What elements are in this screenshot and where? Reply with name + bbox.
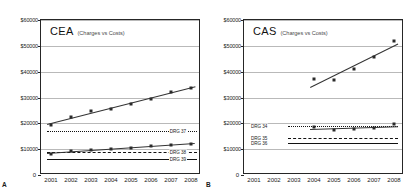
panel-letter-b: B: [206, 181, 211, 188]
data-point: [110, 107, 113, 110]
x-axis-label-2004: 2004: [104, 177, 117, 183]
y-axis-label: $60000: [21, 17, 38, 23]
data-point: [90, 148, 93, 151]
data-point: [373, 127, 376, 130]
x-axis-label-2006: 2006: [347, 177, 360, 183]
data-point: [333, 78, 336, 81]
data-point: [313, 125, 316, 128]
y-axis-tick: [241, 72, 244, 73]
y-axis-tick: [241, 98, 244, 99]
data-point: [373, 56, 376, 59]
chart-subtitle: (Charges vs Costs): [281, 30, 328, 36]
chart-panel-cas: 0$10000$20000$30000$40000$50000$60000200…: [205, 0, 411, 195]
data-point: [170, 144, 173, 147]
data-point: [313, 78, 316, 81]
y-axis-label: $40000: [21, 69, 38, 75]
trendline-charges: [47, 87, 195, 126]
data-point: [70, 150, 73, 153]
data-point: [90, 110, 93, 113]
reference-line-drg-35: [288, 138, 398, 139]
plot-area-cea: 0$10000$20000$30000$40000$50000$60000200…: [40, 19, 200, 174]
y-axis-label: $40000: [224, 69, 241, 75]
gridline: [41, 46, 199, 47]
y-axis-tick: [241, 175, 244, 176]
reference-line-label-drg-37: DRG 37: [169, 129, 187, 134]
x-axis-label-2005: 2005: [124, 177, 137, 183]
gridline: [41, 20, 199, 21]
gridline: [244, 20, 402, 21]
reference-line-drg-36: [288, 143, 398, 144]
x-axis-label-2001: 2001: [247, 177, 260, 183]
x-axis-label-2008: 2008: [184, 177, 197, 183]
y-axis-label: $30000: [21, 95, 38, 101]
x-axis-label-2008: 2008: [387, 177, 400, 183]
y-axis-label: $60000: [224, 17, 241, 23]
data-point: [190, 143, 193, 146]
data-point: [353, 127, 356, 130]
y-axis-label: $20000: [224, 120, 241, 126]
y-axis-tick: [241, 123, 244, 124]
data-point: [333, 128, 336, 131]
data-point: [393, 40, 396, 43]
y-axis-label: 0: [33, 172, 36, 178]
data-point: [130, 103, 133, 106]
chart-subtitle: (Charges vs Costs): [78, 30, 125, 36]
y-axis-tick: [38, 98, 41, 99]
gridline: [41, 123, 199, 124]
y-axis-label: $10000: [21, 146, 38, 152]
y-axis-tick: [38, 175, 41, 176]
data-point: [110, 147, 113, 150]
x-axis-label-2002: 2002: [267, 177, 280, 183]
chart-title-group: CEA(Charges vs Costs): [50, 25, 125, 37]
plot-area-cas: 0$10000$20000$30000$40000$50000$60000200…: [243, 19, 403, 174]
chart-title: CEA: [50, 25, 74, 37]
x-axis-label-2003: 2003: [287, 177, 300, 183]
chart-title-group: CAS(Charges vs Costs): [253, 25, 328, 37]
x-axis-label-2007: 2007: [164, 177, 177, 183]
gridline: [244, 149, 402, 150]
chart-title: CAS: [253, 25, 277, 37]
y-axis-tick: [38, 123, 41, 124]
reference-line-label-drg-34: DRG 34: [250, 123, 268, 128]
data-point: [353, 68, 356, 71]
x-axis-label-2002: 2002: [64, 177, 77, 183]
data-point: [130, 146, 133, 149]
gridline: [244, 46, 402, 47]
data-point: [393, 123, 396, 126]
y-axis-tick: [241, 20, 244, 21]
x-axis-label-2003: 2003: [84, 177, 97, 183]
y-axis-tick: [241, 149, 244, 150]
x-axis-label-2005: 2005: [327, 177, 340, 183]
data-point: [150, 97, 153, 100]
gridline: [41, 98, 199, 99]
gridline: [41, 72, 199, 73]
x-axis-label-2006: 2006: [144, 177, 157, 183]
x-axis-label-2001: 2001: [44, 177, 57, 183]
y-axis-label: 0: [236, 172, 239, 178]
data-point: [150, 145, 153, 148]
gridline: [244, 72, 402, 73]
reference-line-label-drg-36: DRG 36: [250, 140, 268, 145]
x-axis-label-2004: 2004: [307, 177, 320, 183]
y-axis-label: $20000: [21, 120, 38, 126]
data-point: [190, 87, 193, 90]
x-axis-label-2007: 2007: [367, 177, 380, 183]
data-point: [50, 123, 53, 126]
trendline-charges: [310, 44, 398, 88]
chart-panel-cea: 0$10000$20000$30000$40000$50000$60000200…: [0, 0, 205, 195]
y-axis-tick: [241, 46, 244, 47]
y-axis-tick: [38, 72, 41, 73]
y-axis-label: $50000: [224, 43, 241, 49]
panel-letter-a: A: [2, 181, 7, 188]
y-axis-tick: [38, 20, 41, 21]
y-axis-label: $50000: [21, 43, 38, 49]
figure-canvas: 0$10000$20000$30000$40000$50000$60000200…: [0, 0, 411, 195]
data-point: [170, 90, 173, 93]
y-axis-tick: [38, 149, 41, 150]
reference-line-label-drg-39: DRG 39: [169, 156, 187, 161]
data-point: [70, 116, 73, 119]
y-axis-tick: [38, 46, 41, 47]
y-axis-label: $30000: [224, 95, 241, 101]
reference-line-label-drg-38: DRG 38: [169, 150, 187, 155]
y-axis-label: $10000: [224, 146, 241, 152]
